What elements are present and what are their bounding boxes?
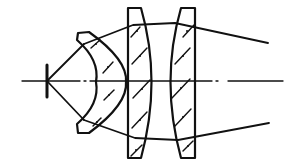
plano-convex-lens-2: [171, 8, 196, 158]
lens-diagram: [0, 0, 308, 168]
